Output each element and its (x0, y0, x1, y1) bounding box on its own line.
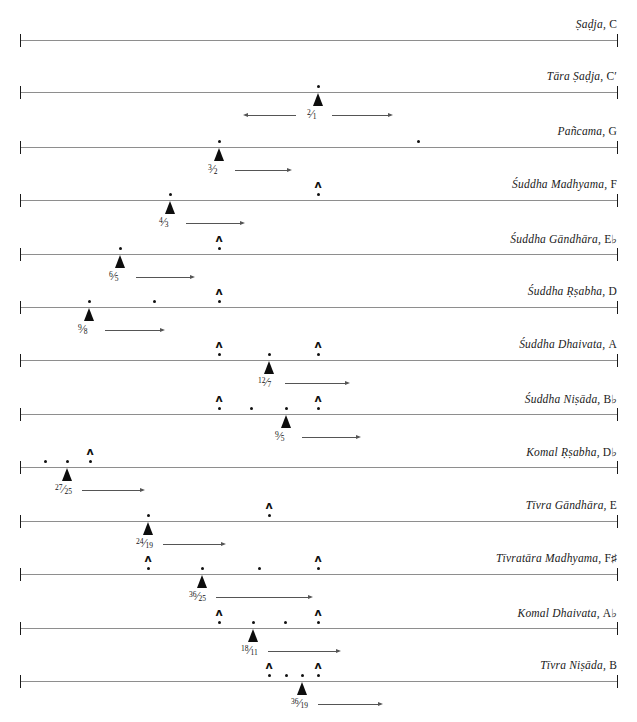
dot-marker-icon (268, 674, 271, 677)
dot-marker-icon (218, 353, 221, 356)
row-label-name: Tīvratāra Madhyama (496, 552, 598, 564)
dot-marker-icon (268, 514, 271, 517)
row-label: Śuddha Dhaivata, A (519, 338, 617, 350)
row-label: Ṣaḍja, C (576, 18, 617, 30)
axis-cap-left (20, 141, 21, 154)
row-label-name: Śuddha Madhyama (512, 178, 604, 190)
row-label: Tīvra Gāndhāra, E (526, 499, 617, 511)
triangle-marker-icon (197, 575, 207, 588)
dot-marker-icon (317, 567, 320, 570)
caret-marker-icon: ʌ (216, 393, 223, 404)
row-label-pitch: C′ (606, 70, 617, 82)
axis-line (20, 147, 617, 148)
dot-marker-icon (44, 460, 47, 463)
dot-marker-icon (268, 353, 271, 356)
ratio-label: 18⁄11 (241, 643, 258, 658)
ratio-label: 4⁄3 (159, 215, 169, 230)
triangle-marker-icon (143, 522, 153, 535)
ratio-arrow-line (136, 277, 190, 278)
ratio-denominator: 2 (214, 167, 218, 176)
axis-line (20, 360, 617, 361)
row-label-pitch: B♭ (604, 393, 618, 405)
row-label-pitch: G (608, 125, 617, 137)
row-label-pitch: F♯ (604, 552, 617, 564)
dot-marker-icon (250, 407, 253, 410)
axis-cap-left (20, 675, 21, 688)
row-label-name: Śuddha Dhaivata (519, 338, 602, 350)
caret-marker-icon: ʌ (216, 607, 223, 618)
ratio-arrowhead-right-icon (160, 328, 165, 332)
row-label-pitch: E♭ (604, 233, 617, 245)
axis-line (20, 628, 617, 629)
ratio-numerator: 27 (55, 483, 63, 492)
ratio-arrowhead-right-icon (140, 488, 145, 492)
ratio-numerator: 12 (258, 376, 266, 385)
axis-cap-right (617, 675, 618, 688)
ratio-arrow-line (332, 115, 388, 116)
ratio-label: 27⁄25 (55, 482, 72, 497)
ratio-arrowhead-right-icon (336, 649, 341, 653)
triangle-marker-icon (214, 148, 224, 161)
axis-cap-right (617, 354, 618, 367)
axis-cap-right (617, 86, 618, 99)
ratio-arrow-line (216, 597, 308, 598)
row-label: Tīvratāra Madhyama, F♯ (496, 552, 617, 564)
figure-canvas: Ṣaḍja, CTāra Ṣaḍja, C′2⁄1Pañcama, G3⁄2Śu… (0, 0, 637, 722)
row-label-name: Ṣaḍja (576, 18, 603, 30)
ratio-arrowhead-right-icon (190, 275, 195, 279)
row-label-name: Śuddha Ṛṣabha (528, 285, 602, 297)
row-label: Śuddha Ṛṣabha, D (528, 285, 617, 297)
axis-line (20, 200, 617, 201)
ratio-denominator: 25 (199, 594, 207, 603)
axis-cap-right (617, 568, 618, 581)
axis-cap-left (20, 301, 21, 314)
row-label: Tāra Ṣaḍja, C′ (547, 70, 617, 82)
caret-marker-icon: ʌ (315, 660, 322, 671)
axis-line (20, 414, 617, 415)
dot-marker-icon (201, 567, 204, 570)
ratio-label: 24⁄19 (136, 536, 153, 551)
axis-cap-left (20, 86, 21, 99)
row-label: Śuddha Madhyama, F (512, 178, 617, 190)
ratio-denominator: 25 (65, 487, 73, 496)
ratio-arrow-line (302, 437, 356, 438)
row-label-name: Śuddha Gāndhāra (510, 233, 598, 245)
caret-marker-icon: ʌ (216, 233, 223, 244)
caret-marker-icon: ʌ (315, 393, 322, 404)
row-label: Komal Ṛṣabha, D♭ (526, 445, 617, 459)
row-label-pitch: C (609, 18, 617, 30)
row-label-name: Śuddha Niṣāda (525, 393, 598, 405)
dot-marker-icon (218, 621, 221, 624)
axis-line (20, 307, 617, 308)
dot-marker-icon (317, 621, 320, 624)
dot-marker-icon (147, 567, 150, 570)
triangle-marker-icon (313, 93, 323, 106)
row-label: Śuddha Niṣāda, B♭ (525, 392, 617, 406)
ratio-arrow-line (163, 544, 221, 545)
dot-marker-icon (317, 193, 320, 196)
triangle-marker-icon (165, 201, 175, 214)
axis-cap-left (20, 515, 21, 528)
row-label: Tīvra Niṣāda, B (540, 659, 617, 671)
dot-marker-icon (317, 407, 320, 410)
dot-marker-icon (147, 514, 150, 517)
triangle-marker-icon (115, 255, 125, 268)
triangle-marker-icon (248, 629, 258, 642)
dot-marker-icon (119, 247, 122, 250)
dot-marker-icon (285, 407, 288, 410)
row-label: Pañcama, G (557, 125, 617, 137)
row-label: Śuddha Gāndhāra, E♭ (510, 232, 617, 246)
ratio-arrowhead-right-icon (378, 702, 383, 706)
ratio-denominator: 19 (146, 541, 154, 550)
axis-cap-right (617, 248, 618, 261)
row-label-name: Komal Ṛṣabha (526, 446, 596, 458)
dot-marker-icon (317, 85, 320, 88)
dot-marker-icon (252, 621, 255, 624)
row-label-name: Tīvra Gāndhāra (526, 499, 604, 511)
ratio-denominator: 5 (281, 434, 285, 443)
dot-marker-icon (66, 460, 69, 463)
caret-marker-icon: ʌ (266, 500, 273, 511)
axis-cap-right (617, 622, 618, 635)
caret-marker-icon: ʌ (216, 286, 223, 297)
ratio-arrowhead-right-icon (287, 168, 292, 172)
